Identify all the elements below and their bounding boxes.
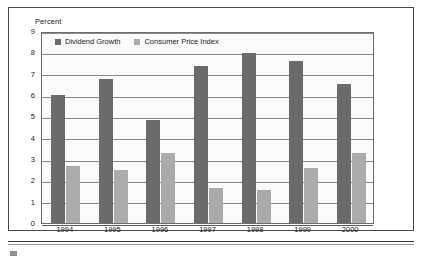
bar-group xyxy=(137,33,185,223)
bars-layer xyxy=(42,33,373,223)
x-axis-tick-label: 2000 xyxy=(342,226,359,234)
bar xyxy=(352,153,366,223)
y-axis-tick-label: 7 xyxy=(31,71,35,79)
x-axis-tick-label: 1994 xyxy=(56,226,73,234)
bar-group xyxy=(232,33,280,223)
bar xyxy=(51,95,65,223)
y-axis-tick-label: 1 xyxy=(31,199,35,207)
bar xyxy=(304,168,318,223)
bar xyxy=(161,153,175,223)
bar xyxy=(337,84,351,223)
y-axis-tick-label: 0 xyxy=(31,220,35,228)
bar-group xyxy=(90,33,138,223)
y-axis-tick-labels: 0123456789 xyxy=(9,32,39,224)
x-axis-tick-label: 1997 xyxy=(199,226,216,234)
legend-swatch-icon xyxy=(134,39,140,45)
plot-area xyxy=(41,32,374,224)
y-axis-tick-label: 8 xyxy=(31,50,35,58)
y-axis-tick-label: 9 xyxy=(31,28,35,36)
x-axis-tick-label: 1996 xyxy=(152,226,169,234)
y-axis-tick-label: 6 xyxy=(31,92,35,100)
y-axis-tick-label: 2 xyxy=(31,178,35,186)
footer-rule xyxy=(8,241,414,242)
bar-group xyxy=(42,33,90,223)
bar xyxy=(194,66,208,223)
bar xyxy=(66,166,80,223)
bar xyxy=(146,120,160,223)
bar xyxy=(209,188,223,223)
chart-legend: Dividend GrowthConsumer Price Index xyxy=(55,37,219,46)
figure-frame: Percent 0123456789 199419951996199719981… xyxy=(8,7,414,231)
bar xyxy=(99,79,113,223)
bar-group xyxy=(185,33,233,223)
footer-swatch-fragment xyxy=(10,251,17,256)
x-axis-tick-labels: 1994199519961997199819992000 xyxy=(41,226,374,238)
bar-group xyxy=(327,33,375,223)
bar-group xyxy=(280,33,328,223)
y-axis-tick-label: 5 xyxy=(31,114,35,122)
legend-label: Consumer Price Index xyxy=(144,37,218,46)
legend-entry: Consumer Price Index xyxy=(134,37,218,46)
bar xyxy=(114,170,128,223)
y-axis-tick-label: 4 xyxy=(31,135,35,143)
legend-label: Dividend Growth xyxy=(65,37,120,46)
legend-swatch-icon xyxy=(55,39,61,45)
x-axis-tick-label: 1995 xyxy=(104,226,121,234)
y-axis-tick-label: 3 xyxy=(31,156,35,164)
x-axis-tick-label: 1999 xyxy=(294,226,311,234)
legend-entry: Dividend Growth xyxy=(55,37,120,46)
footer-rule-secondary xyxy=(8,244,414,245)
axis-unit-label: Percent xyxy=(35,17,62,26)
bar xyxy=(289,61,303,223)
bar xyxy=(242,53,256,223)
bar xyxy=(257,190,271,223)
x-axis-tick-label: 1998 xyxy=(247,226,264,234)
